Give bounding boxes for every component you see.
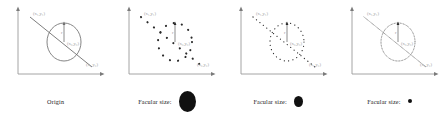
label-radius: r	[395, 30, 397, 35]
y-axis-arrow	[16, 7, 20, 12]
panel-facular-medium-plot: (x₁,y₁) (x₂,y₂) (x₀,y₀) r	[223, 0, 334, 86]
label-line-end: (x₂,y₂)	[86, 62, 98, 68]
label-line-start: (x₁,y₁)	[33, 11, 45, 17]
panel-facular-large-caption: Facular size:	[138, 98, 171, 105]
label-line-end: (x₂,y₂)	[197, 62, 209, 68]
transit-line	[253, 17, 315, 67]
y-axis-arrow	[239, 7, 243, 12]
facular-size-swatch	[294, 96, 303, 107]
label-center: (x₀,y₀)	[290, 41, 302, 47]
panel-origin: (x₁,y₁) (x₂,y₂) (x₀,y₀) r Origin	[0, 0, 111, 116]
label-line-start: (x₁,y₁)	[256, 11, 268, 17]
label-radius: r	[284, 30, 286, 35]
panel-facular-medium-caption: Facular size:	[253, 98, 286, 105]
y-axis-arrow	[127, 7, 131, 12]
label-center: (x₀,y₀)	[67, 41, 79, 47]
transit-line	[364, 17, 426, 67]
label-line-start: (x₁,y₁)	[367, 11, 379, 17]
x-axis-arrow	[434, 72, 439, 76]
facular-size-swatch	[408, 99, 412, 103]
panel-facular-medium-caption-row: Facular size:	[223, 86, 334, 116]
panel-facular-large-plot: (x₁,y₁) (x₂,y₂) (x₀,y₀) r	[111, 0, 222, 86]
label-line-start: (x₁,y₁)	[144, 11, 156, 17]
label-center: (x₀,y₀)	[401, 41, 413, 47]
panel-facular-small-plot: (x₁,y₁) (x₂,y₂) (x₀,y₀) r	[334, 0, 445, 86]
y-axis-arrow	[350, 7, 354, 12]
panel-facular-large: (x₁,y₁) (x₂,y₂) (x₀,y₀) r Facular size:	[111, 0, 222, 116]
x-axis-arrow	[323, 72, 328, 76]
x-axis-arrow	[211, 72, 216, 76]
facular-size-figure: (x₁,y₁) (x₂,y₂) (x₀,y₀) r Origin	[0, 0, 445, 116]
label-radius: r	[61, 30, 63, 35]
panel-origin-plot: (x₁,y₁) (x₂,y₂) (x₀,y₀) r	[0, 0, 111, 86]
panel-facular-medium: (x₁,y₁) (x₂,y₂) (x₀,y₀) r Facular size:	[223, 0, 334, 116]
panel-origin-caption-row: Origin	[0, 86, 111, 116]
label-line-end: (x₂,y₂)	[309, 62, 321, 68]
label-line-end: (x₂,y₂)	[420, 62, 432, 68]
transit-line	[141, 17, 203, 67]
x-axis-arrow	[100, 72, 105, 76]
transit-line	[30, 17, 92, 67]
panel-origin-caption: Origin	[47, 98, 64, 105]
label-radius: r	[172, 30, 174, 35]
label-center: (x₀,y₀)	[178, 41, 190, 47]
facular-size-swatch	[179, 91, 196, 112]
panel-facular-small-caption: Facular size:	[367, 98, 400, 105]
panel-facular-large-caption-row: Facular size:	[111, 86, 222, 116]
panel-facular-small-caption-row: Facular size:	[334, 86, 445, 116]
panel-facular-small: (x₁,y₁) (x₂,y₂) (x₀,y₀) r Facular size:	[334, 0, 445, 116]
